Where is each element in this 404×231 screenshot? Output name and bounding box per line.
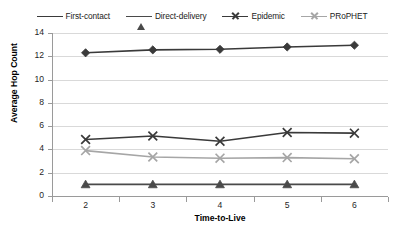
gridline [52,56,388,57]
legend-item-epidemic: Epidemic [222,11,284,21]
y-tick-mark [48,149,52,150]
x-tick-label: 3 [138,200,168,210]
legend-label-epidemic: Epidemic [251,11,284,21]
y-axis-line [52,33,53,197]
legend-key-diamond-icon [37,11,63,21]
legend-item-first-contact: First-contact [37,11,110,21]
x-tick-label: 2 [71,200,101,210]
plot-area [52,33,388,196]
gridline [52,33,388,34]
y-axis-title: Average Hop Count [9,13,19,153]
x-tick-mark [119,197,120,202]
legend-key-triangle-icon [126,11,152,21]
x-tick-mark [388,197,389,202]
x-tick-label: 6 [339,200,369,210]
x-tick-mark [186,197,187,202]
y-tick-mark [48,173,52,174]
legend-label-direct-delivery: Direct-delivery [155,11,207,21]
y-tick-mark [48,103,52,104]
x-tick-mark [321,197,322,202]
x-tick-label: 4 [205,200,235,210]
legend-label-first-contact: First-contact [66,11,110,21]
legend-key-x-dark-icon [222,11,248,21]
legend-item-prophet: PRoPHET [301,11,368,21]
chart-legend: First-contact Direct-delivery Epidemic P… [0,8,404,24]
legend-item-direct-delivery: Direct-delivery [126,11,207,21]
x-axis-line [52,196,388,197]
legend-key-x-gray-icon [301,11,327,21]
y-tick-label: 2 [14,167,44,177]
x-tick-mark [52,197,53,202]
y-tick-mark [48,33,52,34]
y-tick-mark [48,80,52,81]
gridline [52,103,388,104]
x-axis-title: Time-to-Live [52,213,388,223]
x-tick-label: 5 [272,200,302,210]
y-tick-label: 0 [14,190,44,200]
gridline [52,126,388,127]
y-tick-mark [48,126,52,127]
y-tick-mark [48,56,52,57]
legend-label-prophet: PRoPHET [330,11,368,21]
gridline [52,149,388,150]
hop-count-line-chart: First-contact Direct-delivery Epidemic P… [0,0,404,231]
gridline [52,173,388,174]
x-tick-mark [254,197,255,202]
gridline [52,80,388,81]
